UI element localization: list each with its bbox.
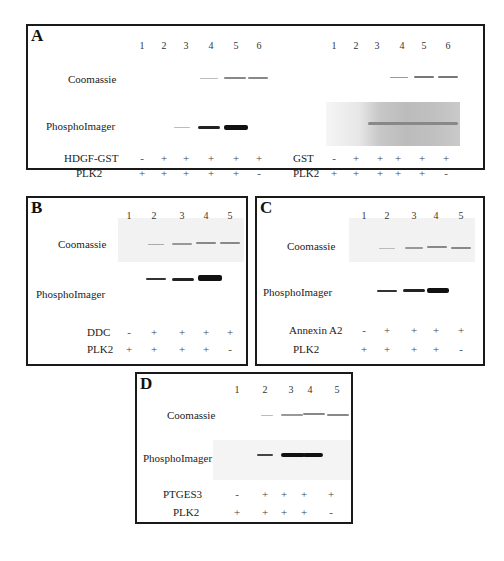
condition-sign: + <box>179 326 185 338</box>
condition-sign: + <box>395 152 401 164</box>
condition-sign: + <box>262 506 268 518</box>
lane-number: 2 <box>354 40 359 51</box>
phosphoimager-label: PhosphoImager <box>46 120 115 132</box>
phospho-band <box>172 278 194 281</box>
condition-sign: + <box>411 324 417 336</box>
condition-sign: + <box>233 152 239 164</box>
lane-number: 4 <box>209 40 214 51</box>
condition-sign: + <box>353 152 359 164</box>
lane-number: 1 <box>127 210 132 221</box>
lane-number: 4 <box>308 384 313 395</box>
coomassie-band <box>200 78 218 79</box>
coomassie-band <box>438 76 458 78</box>
condition-sign: - <box>235 488 239 500</box>
condition-sign: + <box>183 167 189 179</box>
condition-sign: + <box>126 343 132 355</box>
coomassie-band <box>172 243 192 245</box>
lane-number: 3 <box>180 210 185 221</box>
coomassie-band <box>196 242 216 244</box>
condition-sign: + <box>281 488 287 500</box>
lane-number: 1 <box>362 210 367 221</box>
condition-sign: + <box>151 326 157 338</box>
condition-label: PLK2 <box>173 506 199 518</box>
phospho-band <box>303 453 323 457</box>
panel-d: D 1 2 3 4 5 Coomassie PhosphoImager PTGE… <box>135 372 353 524</box>
condition-sign: + <box>281 506 287 518</box>
condition-sign: - <box>444 167 448 179</box>
coomassie-band <box>390 77 408 78</box>
condition-label: Annexin A2 <box>289 324 342 336</box>
phospho-band <box>281 453 305 457</box>
condition-sign: + <box>234 506 240 518</box>
lane-number: 1 <box>235 384 240 395</box>
condition-label: HDGF-GST <box>64 152 118 164</box>
condition-sign: + <box>361 343 367 355</box>
lane-number: 3 <box>412 210 417 221</box>
condition-sign: + <box>161 152 167 164</box>
coomassie-gel <box>118 218 244 262</box>
condition-sign: + <box>328 488 334 500</box>
coomassie-band <box>261 415 273 416</box>
condition-sign: + <box>227 326 233 338</box>
coomassie-band <box>414 76 434 78</box>
condition-sign: + <box>353 167 359 179</box>
condition-sign: + <box>377 152 383 164</box>
condition-sign: + <box>301 488 307 500</box>
lane-number: 6 <box>257 40 262 51</box>
condition-sign: + <box>384 324 390 336</box>
condition-sign: + <box>183 152 189 164</box>
phospho-band <box>146 278 166 280</box>
phospho-band <box>198 126 220 129</box>
lane-number: 1 <box>140 40 145 51</box>
phospho-band <box>224 125 248 130</box>
phospho-band <box>174 127 190 128</box>
panel-letter-d: D <box>140 374 152 394</box>
lane-number: 2 <box>162 40 167 51</box>
lane-number: 6 <box>446 40 451 51</box>
coomassie-label: Coomassie <box>58 238 106 250</box>
coomassie-label: Coomassie <box>167 409 215 421</box>
panel-letter-c: C <box>260 198 272 218</box>
condition-label: DDC <box>87 326 110 338</box>
condition-sign: + <box>139 167 145 179</box>
coomassie-band <box>220 242 240 244</box>
lane-number: 4 <box>204 210 209 221</box>
phosphoimager-label: PhosphoImager <box>36 288 105 300</box>
condition-sign: - <box>459 343 463 355</box>
condition-sign: + <box>203 343 209 355</box>
condition-label: PLK2 <box>76 167 102 179</box>
phospho-band <box>377 290 397 292</box>
condition-sign: + <box>301 506 307 518</box>
condition-sign: + <box>377 167 383 179</box>
lane-number: 5 <box>459 210 464 221</box>
condition-sign: + <box>411 343 417 355</box>
condition-sign: + <box>443 152 449 164</box>
condition-sign: + <box>256 152 262 164</box>
lane-number: 4 <box>400 40 405 51</box>
condition-sign: - <box>332 152 336 164</box>
condition-sign: + <box>208 167 214 179</box>
panel-letter-a: A <box>31 26 43 46</box>
condition-sign: - <box>362 324 366 336</box>
condition-sign: + <box>419 167 425 179</box>
phospho-band <box>257 454 273 456</box>
condition-sign: + <box>179 343 185 355</box>
phospho-band <box>403 289 425 292</box>
condition-sign: - <box>257 167 261 179</box>
condition-sign: + <box>331 167 337 179</box>
coomassie-band <box>148 244 164 245</box>
coomassie-gel <box>349 218 475 262</box>
condition-sign: + <box>203 326 209 338</box>
phospho-band <box>427 288 449 293</box>
condition-sign: + <box>419 152 425 164</box>
lane-number: 3 <box>289 384 294 395</box>
lane-number: 4 <box>434 210 439 221</box>
lane-number: 3 <box>375 40 380 51</box>
panel-c: C 1 2 3 4 5 Coomassie PhosphoImager Anne… <box>255 196 485 366</box>
condition-sign: + <box>233 167 239 179</box>
phospho-gel <box>213 440 351 480</box>
condition-sign: + <box>384 343 390 355</box>
condition-label: PLK2 <box>293 343 319 355</box>
phosphoimager-label: PhosphoImager <box>143 452 212 464</box>
coomassie-band <box>224 77 246 79</box>
